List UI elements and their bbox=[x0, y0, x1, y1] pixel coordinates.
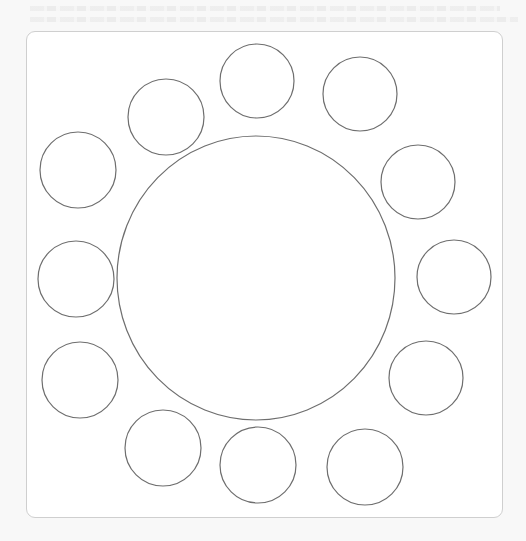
outer-circle-top-right bbox=[323, 57, 397, 131]
outer-circle-left-lower bbox=[42, 342, 118, 418]
center-circle bbox=[117, 136, 395, 420]
outer-circle-left bbox=[38, 241, 114, 317]
outer-circle-right-upper bbox=[381, 145, 455, 219]
diagram-page bbox=[0, 0, 526, 541]
outer-circle-ring bbox=[38, 44, 491, 505]
outer-circle-bottom-left bbox=[125, 410, 201, 486]
outer-circle-right-lower bbox=[389, 341, 463, 415]
outer-circle-bottom-right bbox=[327, 429, 403, 505]
circle-ring-diagram bbox=[0, 0, 526, 541]
outer-circle-right bbox=[417, 240, 491, 314]
outer-circle-bottom bbox=[220, 427, 296, 503]
outer-circle-left-upper bbox=[40, 132, 116, 208]
outer-circle-top-left bbox=[128, 79, 204, 155]
outer-circle-top bbox=[220, 44, 294, 118]
